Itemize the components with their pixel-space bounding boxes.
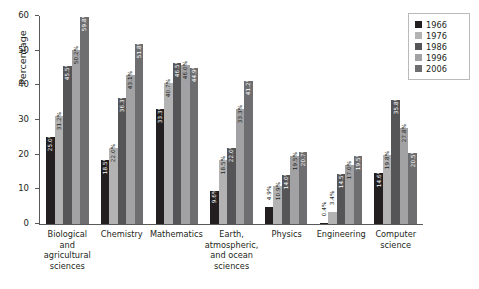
legend-label: 1976	[426, 31, 447, 41]
bar-value-label: 20.5%	[410, 149, 416, 167]
category-label-line: Chemistry	[96, 229, 149, 240]
legend-swatch-icon	[415, 65, 422, 72]
bar-value-label: 10.9%	[275, 182, 281, 200]
legend-item[interactable]: 2006	[415, 63, 464, 74]
bar-value-label: 18.5%	[220, 156, 226, 174]
bar-value-label: 27.8%	[401, 124, 407, 142]
y-tick: 50	[35, 50, 39, 51]
bar-value-label: 18.5%	[102, 156, 108, 174]
bar[interactable]: 3.4%	[328, 212, 337, 224]
bar-value-label: 40.7%	[165, 79, 171, 97]
category-label-line: Computer	[369, 229, 422, 240]
category-label-line: agricultural	[41, 250, 94, 261]
bar-value-label: 35.8%	[393, 96, 399, 114]
bar-value-label: 59.8%	[81, 13, 87, 31]
category-label-line: sciences	[205, 261, 259, 272]
bar[interactable]: 4.9%	[265, 207, 274, 224]
bar[interactable]: 35.8%	[391, 100, 400, 224]
bar[interactable]: 31.2%	[55, 116, 64, 224]
y-tick: 0	[35, 223, 39, 224]
x-axis-category-labels: Biological andagriculturalsciencesChemis…	[40, 229, 423, 271]
bar-value-label: 50.2%	[73, 46, 79, 64]
bar-value-label: 17.0%	[346, 161, 352, 179]
bar-groups: 25.0%31.2%45.5%50.2%59.8%18.5%22.0%36.3%…	[40, 16, 423, 224]
legend-label: 1966	[426, 20, 447, 30]
y-tick: 20	[35, 154, 39, 155]
y-tick: 40	[35, 84, 39, 85]
legend-label: 2006	[426, 64, 447, 74]
category-label-line: atmospheric,	[205, 240, 259, 251]
bar[interactable]: 14.5%	[337, 174, 346, 224]
bar-chart: Percentage 0102030405060 25.0%31.2%45.5%…	[0, 0, 479, 289]
bar[interactable]: 18.5%	[219, 160, 228, 224]
category-label: Biological andagriculturalsciences	[40, 229, 95, 271]
bar[interactable]: 18.5%	[101, 160, 110, 224]
bar[interactable]: 33.3%	[156, 109, 165, 224]
category-label-line: Mathematics	[150, 229, 203, 240]
category-label-line: Engineering	[315, 229, 368, 240]
bar-value-label: 36.3%	[119, 94, 125, 112]
bar-value-label: 3.4%	[329, 191, 335, 206]
bar-group: 33.3%40.7%46.5%46.0%44.9%	[149, 16, 204, 224]
bar[interactable]: 33.3%	[236, 109, 245, 224]
bar[interactable]: 27.8%	[400, 128, 409, 224]
bar[interactable]: 25.0%	[46, 137, 55, 224]
bar[interactable]: 46.0%	[181, 65, 190, 224]
bar[interactable]: 45.5%	[63, 66, 72, 224]
bar[interactable]: 19.5%	[354, 156, 363, 224]
bar[interactable]: 22.0%	[227, 148, 236, 224]
bar-group: 18.5%22.0%36.3%43.1%51.8%	[95, 16, 150, 224]
bar[interactable]: 44.9%	[190, 68, 199, 224]
x-axis-line	[39, 224, 423, 225]
legend: 19661976198619962006	[408, 13, 470, 80]
bar[interactable]: 40.7%	[164, 83, 173, 224]
bar[interactable]: 14.0%	[282, 175, 291, 224]
y-tick-label: 30	[18, 114, 29, 124]
bar[interactable]: 10.9%	[273, 186, 282, 224]
bar[interactable]: 14.6%	[374, 173, 383, 224]
category-label-line: science	[369, 240, 422, 251]
bar[interactable]: 20.7%	[299, 152, 308, 224]
bar[interactable]: 59.8%	[80, 17, 89, 224]
category-label: Mathematics	[149, 229, 204, 271]
legend-item[interactable]: 1966	[415, 19, 464, 30]
category-label: Computerscience	[368, 229, 423, 271]
bar-value-label: 19.5%	[292, 152, 298, 170]
bar-value-label: 33.3%	[157, 104, 163, 122]
bar[interactable]: 46.5%	[173, 63, 182, 224]
y-tick-label: 50	[18, 45, 29, 55]
legend-item[interactable]: 1986	[415, 41, 464, 52]
bar-value-label: 19.5%	[355, 152, 361, 170]
category-label: Earth,atmospheric,and oceansciences	[204, 229, 260, 271]
bar-value-label: 22.0%	[229, 144, 235, 162]
bar[interactable]: 22.0%	[109, 148, 118, 224]
bar[interactable]: 0.4%	[320, 223, 329, 224]
bar-value-label: 41.2%	[246, 77, 252, 95]
bar[interactable]: 41.2%	[244, 81, 253, 224]
bar-value-label: 51.8%	[136, 40, 142, 58]
bar[interactable]: 9.6%	[210, 191, 219, 224]
category-label-line: Earth,	[205, 229, 259, 240]
category-label-line: Physics	[260, 229, 313, 240]
bar[interactable]: 51.8%	[135, 44, 144, 224]
legend-item[interactable]: 1996	[415, 52, 464, 63]
bar[interactable]: 20.5%	[408, 153, 417, 224]
bar[interactable]: 36.3%	[118, 98, 127, 224]
legend-item[interactable]: 1976	[415, 30, 464, 41]
y-tick: 10	[35, 188, 39, 189]
y-tick-label: 20	[18, 149, 29, 159]
bar-value-label: 0.4%	[321, 201, 327, 216]
category-label: Engineering	[314, 229, 369, 271]
bar[interactable]: 19.8%	[383, 155, 392, 224]
bar[interactable]: 17.0%	[345, 165, 354, 224]
bar[interactable]: 43.1%	[126, 75, 135, 224]
y-tick: 60	[35, 15, 39, 16]
legend-swatch-icon	[415, 32, 422, 39]
bar[interactable]: 19.5%	[290, 156, 299, 224]
bar-group: 4.9%10.9%14.0%19.5%20.7%	[259, 16, 314, 224]
legend-swatch-icon	[415, 21, 422, 28]
bar[interactable]: 50.2%	[72, 50, 81, 224]
bar-value-label: 14.0%	[283, 171, 289, 189]
bar-value-label: 46.0%	[182, 60, 188, 78]
bar-group: 9.6%18.5%22.0%33.3%41.2%	[204, 16, 259, 224]
